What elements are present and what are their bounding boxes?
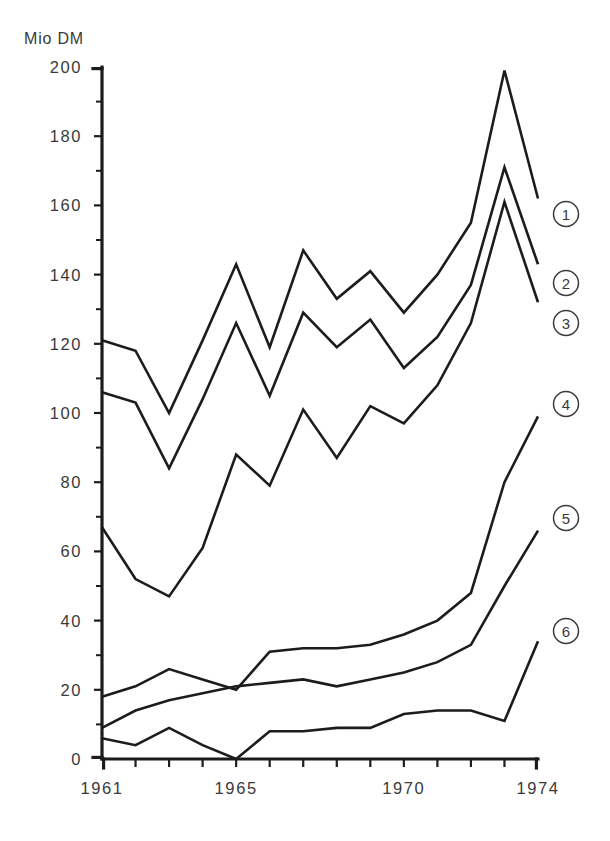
legend-item-label: 5: [562, 510, 570, 527]
legend-item-3[interactable]: 3: [554, 311, 579, 336]
x-axis-tick-label: 1974: [516, 779, 559, 797]
legend-item-5[interactable]: 5: [554, 506, 579, 531]
y-axis-tick-label: 120: [50, 335, 82, 353]
y-axis-tick-label: 80: [60, 473, 82, 491]
y-axis-tick-label: 160: [50, 196, 82, 214]
series-lines: [102, 70, 538, 759]
y-axis-tick-label: 40: [60, 612, 82, 630]
x-axis-tick-label: 1961: [80, 779, 123, 797]
y-axis-tick-label: 100: [50, 404, 82, 422]
legend-item-label: 6: [562, 623, 570, 640]
y-axis-tick-label: 20: [60, 681, 82, 699]
y-axis-unit-label-group: Mio DM: [24, 30, 84, 47]
y-axis-tick-label: 140: [50, 266, 82, 284]
legend-item-4[interactable]: 4: [554, 392, 579, 417]
y-axis-tick-label: 60: [60, 542, 82, 560]
legend-item-label: 4: [562, 396, 570, 413]
series-line-4: [102, 416, 538, 696]
chart-svg: Mio DM 020406080100120140160180200 19611…: [0, 0, 610, 841]
x-axis-tick-label: 1965: [215, 779, 258, 797]
x-axis: 1961196519701974: [80, 759, 559, 797]
y-axis-tick-label: 180: [50, 127, 82, 145]
series-line-5: [102, 531, 538, 728]
y-axis-unit-label: Mio DM: [24, 30, 84, 47]
legend-item-label: 1: [562, 206, 570, 223]
legend-item-6[interactable]: 6: [554, 619, 579, 644]
y-axis: 020406080100120140160180200: [50, 58, 102, 768]
series-line-3: [102, 202, 538, 596]
line-chart: Mio DM 020406080100120140160180200 19611…: [0, 0, 610, 841]
y-axis-tick-label: 0: [71, 750, 82, 768]
legend: 123456: [554, 202, 579, 644]
x-axis-tick-label: 1970: [382, 779, 425, 797]
legend-item-2[interactable]: 2: [554, 271, 579, 296]
legend-item-label: 2: [562, 275, 570, 292]
y-axis-tick-label: 200: [50, 58, 82, 76]
legend-item-label: 3: [562, 315, 570, 332]
series-line-1: [102, 70, 538, 413]
legend-item-1[interactable]: 1: [554, 202, 579, 227]
